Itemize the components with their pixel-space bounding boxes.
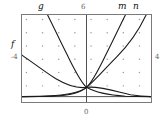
figure-container: g m n f 6 -4 4 0 [0, 0, 163, 122]
tick-label-top: 6 [81, 4, 85, 11]
curve-label-m: m [118, 2, 127, 11]
tick-label-bottom: 0 [84, 109, 88, 116]
tick-label-right: 4 [155, 54, 159, 61]
curve-f [22, 55, 151, 97]
curve-layer [22, 15, 151, 102]
plot-frame [21, 14, 152, 103]
tick-label-left: -4 [11, 54, 18, 61]
curve-m [22, 15, 125, 97]
curve-label-f: f [11, 40, 14, 49]
curve-g [48, 15, 151, 97]
curve-label-n: n [133, 2, 139, 11]
curve-label-g: g [38, 2, 44, 11]
